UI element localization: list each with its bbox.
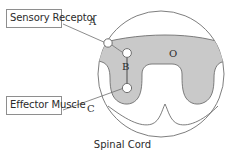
figure-caption: Spinal Cord <box>0 139 245 151</box>
node-a-sensory-neuron <box>104 39 112 47</box>
node-b-dorsal-synapse <box>123 49 132 58</box>
label-box-effector-muscle: Effector Muscle <box>6 96 62 115</box>
node-c-motor-neuron <box>122 83 131 92</box>
marker-label-c: C <box>87 104 95 114</box>
marker-label-o: O <box>169 49 177 59</box>
spinal-cord-reflex-arc-figure: Sensory Receptor Effector Muscle A B C O… <box>0 0 245 158</box>
marker-label-b: B <box>122 62 129 72</box>
leader-line-sensory-receptor <box>63 24 106 43</box>
marker-label-a: A <box>89 17 96 27</box>
label-box-sensory-receptor: Sensory Receptor <box>6 9 62 28</box>
